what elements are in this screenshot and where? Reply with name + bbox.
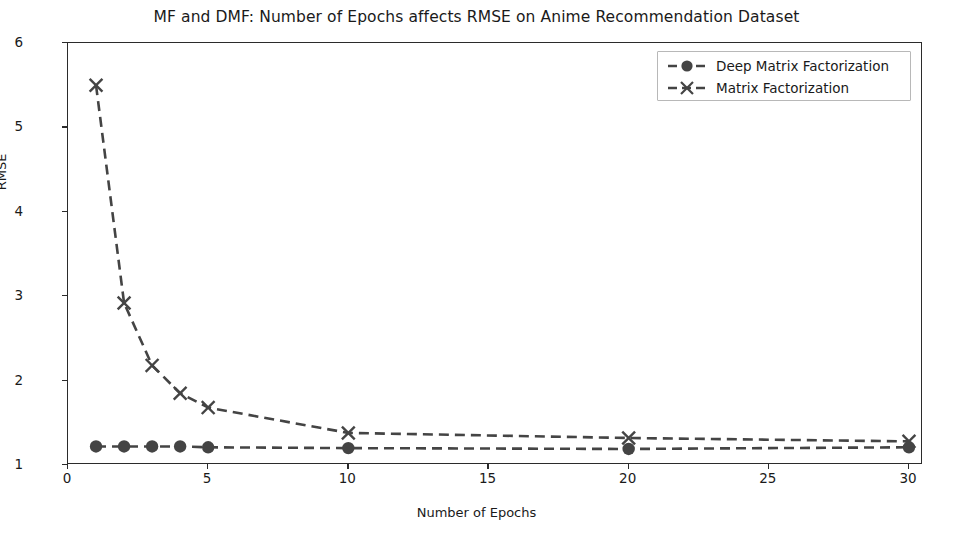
- y-tick-label: 5: [0, 118, 23, 134]
- y-tick-label: 6: [0, 34, 23, 50]
- chart-title: MF and DMF: Number of Epochs affects RMS…: [0, 8, 953, 26]
- plot-area: [67, 42, 922, 464]
- y-tick-label: 3: [0, 287, 23, 303]
- data-point-marker: [342, 442, 354, 454]
- x-tick-label: 0: [47, 470, 87, 486]
- data-point-marker: [146, 440, 158, 452]
- series-line: [96, 85, 909, 441]
- series-x: [90, 79, 916, 448]
- data-series-layer: [90, 79, 916, 455]
- data-point-marker: [118, 440, 130, 452]
- x-tick-label: 25: [748, 470, 788, 486]
- series-line: [96, 446, 909, 449]
- x-tick-label: 20: [608, 470, 648, 486]
- legend-item-matrix-factorization[interactable]: Matrix Factorization: [666, 77, 849, 98]
- legend-label: Matrix Factorization: [716, 80, 849, 96]
- x-tick-label: 10: [327, 470, 367, 486]
- y-tick-label: 1: [0, 456, 23, 472]
- data-point-marker: [90, 440, 102, 452]
- data-point-marker: [174, 440, 186, 452]
- chart-figure: MF and DMF: Number of Epochs affects RMS…: [0, 0, 953, 545]
- x-tick-label: 15: [467, 470, 507, 486]
- x-tick-label: 5: [187, 470, 227, 486]
- y-tick-label: 4: [0, 203, 23, 219]
- legend-marker-x-icon: [666, 78, 708, 98]
- legend-item-deep-matrix-factorization[interactable]: Deep Matrix Factorization: [666, 55, 889, 76]
- y-tick-label: 2: [0, 372, 23, 388]
- series-circle: [90, 440, 915, 455]
- plot-svg: [68, 43, 923, 465]
- data-point-marker: [202, 441, 214, 453]
- x-axis-label: Number of Epochs: [0, 505, 953, 520]
- legend-label: Deep Matrix Factorization: [716, 58, 889, 74]
- legend-marker-circle-icon: [666, 56, 708, 76]
- legend: Deep Matrix Factorization Matrix Factori…: [657, 51, 911, 101]
- x-tick-label: 30: [888, 470, 928, 486]
- data-point-marker: [622, 443, 634, 455]
